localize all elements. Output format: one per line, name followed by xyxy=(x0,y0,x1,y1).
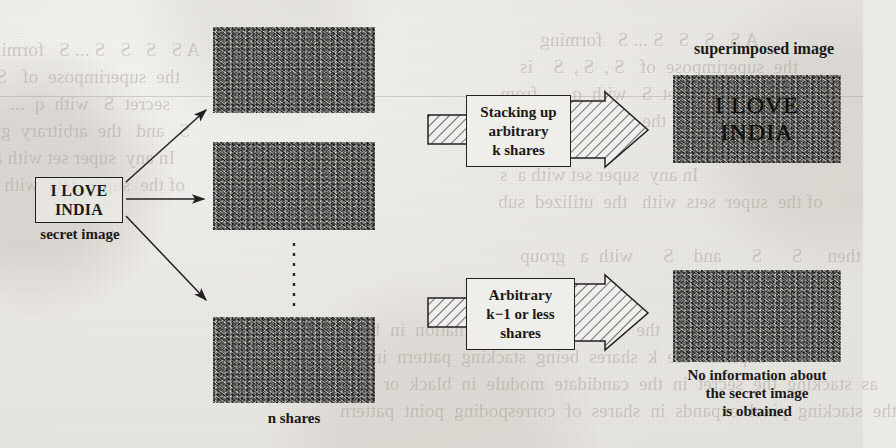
arrow-secret-to-share-3 xyxy=(126,216,206,300)
arbitrary-shares-label-line-3: shares xyxy=(500,324,541,343)
arbitrary-shares-label-line-1: Arbitrary xyxy=(489,286,552,305)
stacking-up-label-line-1: Stacking up xyxy=(480,103,556,122)
stacking-up-label-line-3: k shares xyxy=(492,141,545,160)
stacking-up-label-line-2: arbitrary xyxy=(489,122,549,141)
arbitrary-shares-label-line-2: k−1 or less xyxy=(486,305,554,324)
stacking-up-label-box: Stacking up arbitrary k shares xyxy=(466,95,571,167)
arbitrary-shares-label-box: Arbitrary k−1 or less shares xyxy=(466,278,575,350)
arrow-secret-to-share-1 xyxy=(126,110,206,182)
